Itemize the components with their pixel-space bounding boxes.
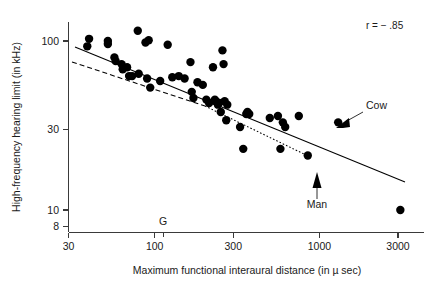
data-point xyxy=(146,83,154,91)
data-point xyxy=(217,108,225,116)
data-point xyxy=(281,123,289,131)
data-point xyxy=(143,74,151,82)
data-point xyxy=(236,123,244,131)
correlation-label: r = − .85 xyxy=(366,20,404,31)
data-point xyxy=(199,81,207,89)
axis-group xyxy=(69,22,425,233)
man-label: Man xyxy=(307,198,328,210)
data-point xyxy=(104,40,112,48)
x-tick-label: 3000 xyxy=(386,240,410,252)
data-point xyxy=(218,46,226,54)
x-tick-label: 300 xyxy=(224,240,242,252)
y-tick-label: 10 xyxy=(47,204,59,216)
data-point xyxy=(83,42,91,50)
data-point xyxy=(134,70,142,78)
data-point xyxy=(189,94,197,102)
data-point xyxy=(85,35,93,43)
man-arrowhead xyxy=(313,172,322,188)
data-point xyxy=(295,112,303,120)
cow-label: Cow xyxy=(366,99,387,111)
y-tick-label: 100 xyxy=(41,35,59,47)
data-point xyxy=(276,145,284,153)
data-point xyxy=(219,60,227,68)
data-point xyxy=(245,110,253,118)
data-point xyxy=(222,116,230,124)
chart-canvas: 10030108 3010030010003000 High-frequency… xyxy=(0,0,433,284)
data-point xyxy=(239,145,247,153)
g-marker-label: G xyxy=(159,215,167,227)
x-axis-ticks: 3010030010003000 xyxy=(63,233,410,253)
x-axis-title: Maximum functional interaural distance (… xyxy=(133,264,361,276)
cow-annotation: Cow xyxy=(336,99,387,128)
data-point xyxy=(223,100,231,108)
data-point xyxy=(163,41,171,49)
data-point xyxy=(396,206,404,214)
data-point xyxy=(134,27,142,35)
data-points-group xyxy=(83,27,404,215)
data-point xyxy=(304,151,312,159)
g-marker-group: G xyxy=(159,215,167,237)
x-tick-label: 100 xyxy=(146,240,164,252)
x-tick-label: 30 xyxy=(63,240,75,252)
data-point xyxy=(123,63,131,71)
data-point xyxy=(186,58,194,66)
data-point xyxy=(209,63,217,71)
y-axis-title: High-frequency hearing limit (in kHz) xyxy=(10,42,22,212)
subset-dashed-fit xyxy=(72,62,205,106)
data-point xyxy=(156,77,164,85)
x-tick-label: 1000 xyxy=(308,240,332,252)
data-point xyxy=(266,114,274,122)
scatter-plot-figure: 10030108 3010030010003000 High-frequency… xyxy=(0,0,433,284)
man-annotation: Man xyxy=(307,172,328,210)
y-tick-label: 30 xyxy=(47,123,59,135)
y-axis-ticks: 10030108 xyxy=(41,35,68,232)
data-point xyxy=(180,74,188,82)
data-point xyxy=(144,36,152,44)
y-tick-label: 8 xyxy=(53,220,59,232)
